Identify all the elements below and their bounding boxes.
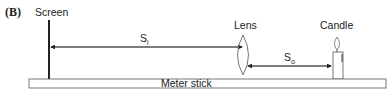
flame-icon [335, 37, 340, 50]
candle [333, 37, 343, 79]
meter-stick-label: Meter stick [161, 77, 213, 89]
lens [238, 35, 249, 75]
lens-label: Lens [234, 19, 257, 31]
si-label: Si [140, 32, 149, 46]
optics-diagram: (B) Screen Si Lens So Candle Meter stick [0, 0, 387, 98]
candle-label: Candle [320, 19, 353, 31]
screen-label: Screen [35, 6, 68, 18]
panel-label: (B) [5, 5, 21, 19]
so-label: So [284, 51, 295, 65]
